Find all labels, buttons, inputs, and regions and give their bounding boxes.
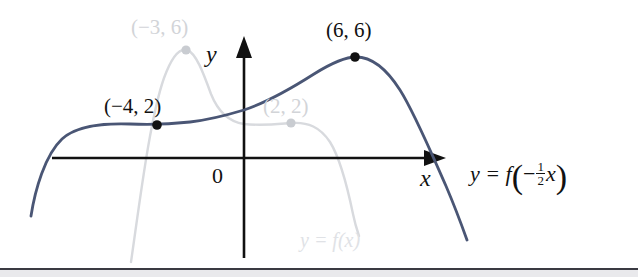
point-label-neg3-6: (−3, 6): [131, 17, 188, 38]
function-label-close-paren: ): [556, 160, 567, 194]
function-label-original: y = f(x): [300, 230, 360, 250]
function-label-lhs: y = f: [470, 161, 512, 186]
function-label-minus: −: [523, 161, 535, 186]
point-marker-neg4-2: [152, 120, 162, 130]
x-axis-label: x: [420, 166, 431, 190]
function-label-variable: x: [546, 161, 556, 186]
origin-label: 0: [212, 165, 223, 187]
function-label-transformed: y = f(−12x): [470, 160, 567, 194]
fraction-denominator: 2: [536, 174, 545, 187]
point-marker-2-2: [286, 118, 295, 127]
point-marker-6-6: [350, 52, 360, 62]
point-label-neg4-2: (−4, 2): [104, 96, 161, 117]
y-axis-arrowhead: [236, 36, 252, 58]
point-marker-neg3-6: [181, 45, 190, 54]
graph-figure: (−3, 6) (−4, 2) (2, 2) (6, 6) y x 0 y = …: [0, 0, 638, 277]
function-label-fraction: 12: [536, 160, 545, 188]
function-label-open-paren: (: [512, 160, 523, 194]
curve-transformed-fx: [31, 57, 467, 240]
point-label-6-6: (6, 6): [326, 20, 372, 41]
y-axis-label: y: [206, 42, 217, 66]
bottom-shade-strip: [0, 270, 638, 277]
point-label-2-2: (2, 2): [263, 96, 309, 117]
fraction-numerator: 1: [536, 160, 545, 174]
